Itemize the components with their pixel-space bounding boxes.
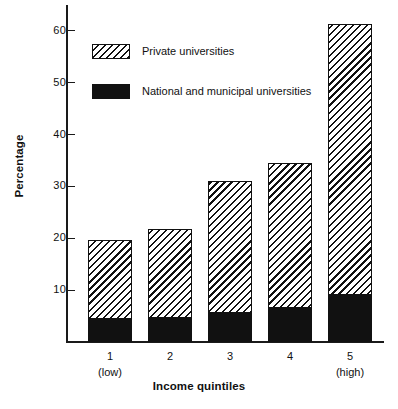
y-axis-title: Percentage xyxy=(13,121,25,211)
y-axis-label-50: 50 xyxy=(26,77,66,88)
legend-label-private: Private universities xyxy=(142,45,234,58)
x-axis-label-4: 4 xyxy=(260,350,320,362)
y-axis-label-30: 30 xyxy=(26,180,66,191)
x-axis-label-2: 2 xyxy=(140,350,200,362)
x-axis-label-3: 3 xyxy=(200,350,260,362)
x-axis-sublabel-low: (low) xyxy=(75,366,145,378)
legend-item-private: Private universities xyxy=(92,44,322,70)
y-axis-label-60: 60 xyxy=(26,25,66,36)
x-axis-sublabel-high: (high) xyxy=(315,366,385,378)
y-axis-label-20: 20 xyxy=(26,232,66,243)
legend-swatch-private-icon xyxy=(92,44,130,59)
bar-4-national xyxy=(268,307,312,342)
x-axis-label-1: 1 xyxy=(80,350,140,362)
y-axis-label-40: 40 xyxy=(26,129,66,140)
x-axis-label-5: 5 xyxy=(320,350,380,362)
bar-1-national xyxy=(88,318,132,342)
legend-swatch-national-icon xyxy=(92,84,130,99)
legend-label-national: National and municipal universities xyxy=(142,85,311,98)
legend-item-national: National and municipal universities xyxy=(92,84,322,110)
bar-2-national xyxy=(148,317,192,342)
bar-chart: 60 50 40 30 20 10 Percentage 1 2 3 4 5 xyxy=(0,0,398,409)
chart-legend: Private universities National and munici… xyxy=(92,44,322,110)
x-axis-title: Income quintiles xyxy=(0,380,398,392)
bar-5-national xyxy=(328,294,372,342)
y-axis-label-10: 10 xyxy=(26,284,66,295)
bar-3-national xyxy=(208,312,252,342)
